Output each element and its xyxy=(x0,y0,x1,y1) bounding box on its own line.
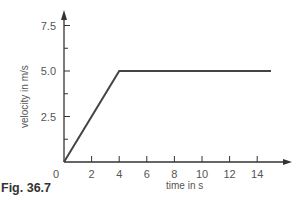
y-axis-label: velocity in m/s xyxy=(19,65,30,128)
y-tick-label: 2.5 xyxy=(41,111,56,123)
y-tick-label: 5.0 xyxy=(41,65,56,77)
x-tick-label: 8 xyxy=(171,168,177,180)
x-tick-label: 0 xyxy=(53,168,59,180)
x-tick-label: 14 xyxy=(251,168,263,180)
velocity-line xyxy=(64,71,271,162)
axes xyxy=(61,10,292,165)
x-tick-label: 12 xyxy=(223,168,235,180)
y-axis-arrow-icon xyxy=(61,10,67,20)
ticks xyxy=(64,26,257,163)
figure-caption: Fig. 36.7 xyxy=(1,181,51,195)
velocity-time-chart: 024681012142.55.07.5 time in s velocity … xyxy=(0,0,305,201)
tick-labels: 024681012142.55.07.5 xyxy=(41,20,264,181)
x-axis-arrow-icon xyxy=(283,159,292,165)
x-tick-label: 10 xyxy=(196,168,208,180)
x-tick-label: 2 xyxy=(89,168,95,180)
x-tick-label: 4 xyxy=(116,168,122,180)
x-axis-label: time in s xyxy=(166,180,203,191)
y-tick-label: 7.5 xyxy=(41,20,56,32)
x-tick-label: 6 xyxy=(144,168,150,180)
